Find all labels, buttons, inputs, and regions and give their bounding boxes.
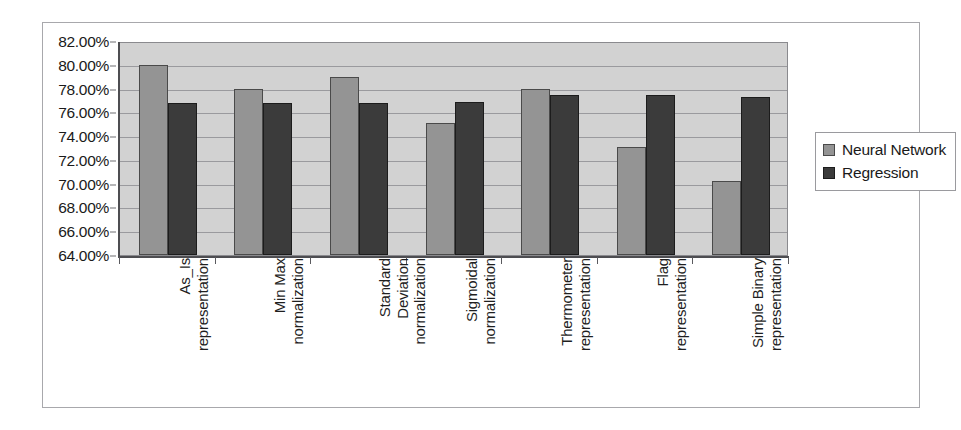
x-axis-category-label-line: Sigmoidal [463,258,481,404]
x-axis-category-label-line: Standard [376,258,394,404]
bar-group [426,42,484,255]
y-axis-line [118,42,120,257]
x-axis-category-label: StandardDeviationnormalization [376,258,429,404]
y-axis-tick-mark [110,232,116,233]
x-axis-category-label-line: Deviation [394,258,412,404]
y-axis-tick-mark [110,160,116,161]
bar [617,147,646,255]
x-axis-category-label-line: Simple Binary [749,258,767,404]
bar-group [330,42,388,255]
legend-swatch-icon [823,167,835,179]
y-axis-tick-label: 64.00% [58,247,109,265]
x-axis-category-label-line: representation [193,258,211,404]
bar [455,102,484,255]
y-axis-tick-label: 78.00% [58,81,109,99]
x-axis-category-label-line: representation [576,258,594,404]
x-axis-category-label: Min Maxnormalization [271,258,306,404]
x-axis-category-label: Sigmoidalnormalization [463,258,498,404]
y-axis-tick-mark [110,42,116,43]
bar [521,89,550,255]
bar [712,181,741,255]
x-axis-category-label-line: As_Is [176,258,194,404]
y-axis-tick-label: 70.00% [58,176,109,194]
chart-legend: Neural NetworkRegression [815,132,956,191]
x-axis-category-label-line: normalization [411,258,429,404]
plot-area [119,42,788,256]
x-axis-category-label-line: Thermometer [558,258,576,404]
bar [234,89,263,255]
y-axis-tick-label: 66.00% [58,223,109,241]
y-axis-tick-mark [110,89,116,90]
y-axis-tick-label: 72.00% [58,152,109,170]
y-axis-tick-label: 68.00% [58,199,109,217]
legend-label: Neural Network [842,141,946,159]
bar [741,97,770,255]
bar-group [521,42,579,255]
y-axis-tick-mark [110,208,116,209]
bar [168,103,197,255]
bar-group [234,42,292,255]
y-axis-tick-mark [110,184,116,185]
x-axis-category-label-line: representation [671,258,689,404]
y-axis: 82.00%80.00%78.00%76.00%74.00%72.00%70.0… [41,42,115,256]
bar [330,77,359,255]
y-axis-tick-mark [110,113,116,114]
y-axis-tick-mark [110,137,116,138]
y-axis-tick-label: 74.00% [58,128,109,146]
x-axis-category-label: Flagrepresentation [654,258,689,404]
x-axis-tick-mark [788,257,789,264]
x-axis-category-label-line: representation [767,258,785,404]
y-axis-tick-mark [110,65,116,66]
y-axis-tick-label: 76.00% [58,104,109,122]
legend-item[interactable]: Neural Network [823,138,946,161]
legend-label: Regression [842,164,918,182]
x-axis-category-label-line: Min Max [271,258,289,404]
bar-group [712,42,770,255]
y-axis-tick-label: 80.00% [58,57,109,75]
bar [263,103,292,255]
bar [426,123,455,255]
x-axis-category-labels: As_IsrepresentationMin MaxnormalizationS… [119,258,788,404]
x-axis-category-label-line: normalization [480,258,498,404]
legend-swatch-icon [823,144,835,156]
bar-group [139,42,197,255]
bar [359,103,388,255]
x-axis-category-label: As_Isrepresentation [176,258,211,404]
plot-region: 82.00%80.00%78.00%76.00%74.00%72.00%70.0… [119,42,788,256]
bar-group [617,42,675,255]
y-axis-tick-label: 82.00% [58,33,109,51]
x-axis-category-label: Thermometerrepresentation [558,258,593,404]
x-axis-category-label-line: normalization [289,258,307,404]
x-axis-category-label: Simple Binaryrepresentation [749,258,784,404]
y-axis-tick-mark [110,256,116,257]
bar [646,95,675,256]
legend-item[interactable]: Regression [823,161,946,184]
x-axis-category-label-line: Flag [654,258,672,404]
bar [139,65,168,255]
chart-frame: 82.00%80.00%78.00%76.00%74.00%72.00%70.0… [42,22,920,408]
bar [550,95,579,256]
